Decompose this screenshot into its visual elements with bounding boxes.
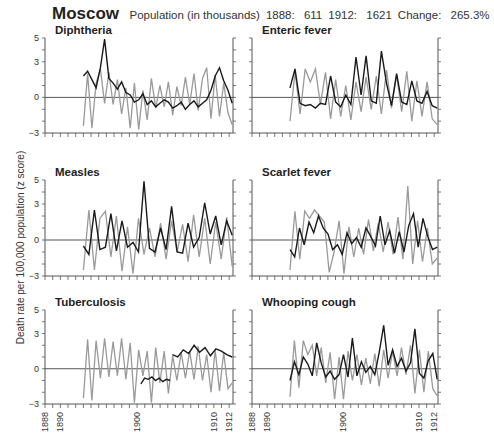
y-tick-label: −3 bbox=[29, 128, 39, 138]
panel-tuberculosis: Tuberculosis−303518881890190019101912 bbox=[29, 296, 236, 432]
y-tick-label: 0 bbox=[34, 92, 39, 102]
series-black bbox=[141, 377, 170, 384]
panel-title: Enteric fever bbox=[262, 24, 332, 36]
x-tick-label: 1888 bbox=[247, 412, 257, 432]
y-tick-label: 3 bbox=[34, 199, 39, 209]
x-tick-label: 1888 bbox=[40, 412, 50, 432]
panel-title: Tuberculosis bbox=[55, 296, 126, 308]
x-tick-label: 1890 bbox=[262, 412, 272, 432]
panel-diphtheria: Diphtheria−3035 bbox=[29, 24, 236, 138]
panel-enteric-fever: Enteric fever bbox=[249, 24, 441, 137]
panel-whooping-cough: Whooping cough18881890190019101912 bbox=[247, 296, 441, 432]
series-gray bbox=[83, 68, 232, 130]
y-tick-label: 0 bbox=[34, 235, 39, 245]
panel-title: Scarlet fever bbox=[262, 166, 332, 178]
x-tick-label: 1910 bbox=[414, 412, 424, 432]
x-tick-label: 1912 bbox=[224, 412, 234, 432]
y-tick-label: 5 bbox=[34, 305, 39, 315]
series-gray bbox=[290, 341, 437, 400]
y-tick-label: 5 bbox=[34, 175, 39, 185]
panel-measles: Measles−3035 bbox=[29, 166, 236, 281]
y-tick-label: −3 bbox=[29, 271, 39, 281]
x-tick-label: 1900 bbox=[132, 412, 142, 432]
panel-title: Diphtheria bbox=[55, 24, 112, 36]
panel-title: Whooping cough bbox=[262, 296, 356, 308]
y-tick-label: 3 bbox=[34, 57, 39, 67]
x-tick-label: 1900 bbox=[338, 412, 348, 432]
x-tick-label: 1890 bbox=[55, 412, 65, 432]
series-gray bbox=[83, 338, 232, 403]
y-tick-label: 0 bbox=[34, 364, 39, 374]
x-tick-label: 1912 bbox=[429, 412, 439, 432]
y-tick-label: −3 bbox=[29, 399, 39, 409]
panel-scarlet-fever: Scarlet fever bbox=[249, 166, 441, 280]
panel-title: Measles bbox=[55, 166, 100, 178]
y-tick-label: 5 bbox=[34, 33, 39, 43]
change-value: 265.3% bbox=[451, 9, 490, 21]
y-tick-label: 3 bbox=[34, 329, 39, 339]
x-tick-label: 1910 bbox=[209, 412, 219, 432]
